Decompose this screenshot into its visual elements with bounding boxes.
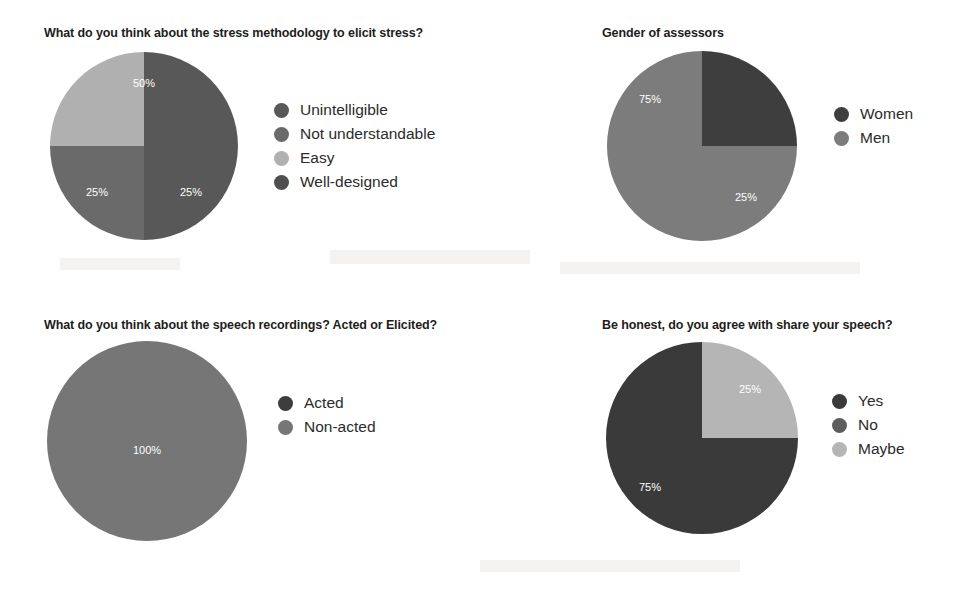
legend-swatch-icon (278, 420, 293, 435)
pie-slice (47, 341, 247, 541)
chart-title-gender: Gender of assessors (602, 26, 913, 40)
figure-page: What do you think about the stress metho… (0, 0, 959, 591)
legend-item[interactable]: Women (834, 105, 913, 123)
pie-chart-gender: 25%75% (602, 46, 802, 246)
legend-item-label: Well-designed (300, 173, 398, 191)
pie-svg-speech: 100% (44, 338, 250, 544)
legend-item[interactable]: Unintelligible (274, 101, 435, 119)
pie-slice-label: 75% (639, 481, 661, 493)
legend-stress: UnintelligibleNot understandableEasyWell… (274, 98, 435, 194)
legend-swatch-icon (832, 394, 847, 409)
legend-swatch-icon (274, 151, 289, 166)
scan-smudge (560, 262, 860, 274)
legend-item-label: Easy (300, 149, 334, 167)
pie-svg-share: 25%75% (602, 338, 802, 538)
pie-svg-stress: 50%25%25% (44, 46, 244, 246)
legend-item-label: Yes (858, 392, 883, 410)
scan-smudge (330, 250, 530, 264)
chart-panel-stress: What do you think about the stress metho… (44, 26, 435, 246)
legend-item[interactable]: Non-acted (278, 418, 376, 436)
chart-panel-speech: What do you think about the speech recor… (44, 318, 437, 544)
chart-title-speech: What do you think about the speech recor… (44, 318, 437, 332)
legend-item-label: Men (860, 129, 890, 147)
legend-item[interactable]: Not understandable (274, 125, 435, 143)
pie-slice-label: 100% (133, 444, 161, 456)
legend-item-label: Maybe (858, 440, 905, 458)
scan-smudge (480, 560, 740, 572)
chart-title-share: Be honest, do you agree with share your … (602, 318, 905, 332)
legend-swatch-icon (834, 131, 849, 146)
chart-row-gender: 25%75% WomenMen (602, 46, 913, 246)
pie-slice-label: 25% (86, 186, 108, 198)
chart-title-stress: What do you think about the stress metho… (44, 26, 435, 40)
legend-swatch-icon (274, 175, 289, 190)
legend-item-label: No (858, 416, 878, 434)
legend-swatch-icon (278, 396, 293, 411)
legend-item[interactable]: Maybe (832, 440, 905, 458)
legend-speech: ActedNon-acted (278, 391, 376, 439)
chart-row-stress: 50%25%25% UnintelligibleNot understandab… (44, 46, 435, 246)
legend-item[interactable]: No (832, 416, 905, 434)
legend-item[interactable]: Easy (274, 149, 435, 167)
legend-item-label: Non-acted (304, 418, 376, 436)
pie-slice-label: 25% (180, 186, 202, 198)
pie-chart-stress: 50%25%25% (44, 46, 244, 246)
legend-item-label: Acted (304, 394, 344, 412)
chart-row-speech: 100% ActedNon-acted (44, 338, 437, 544)
legend-swatch-icon (274, 103, 289, 118)
pie-slice (50, 52, 144, 146)
legend-swatch-icon (832, 418, 847, 433)
legend-item[interactable]: Acted (278, 394, 376, 412)
pie-slice-label: 25% (735, 191, 757, 203)
scan-smudge (60, 258, 180, 270)
legend-item[interactable]: Men (834, 129, 913, 147)
legend-share: YesNoMaybe (832, 389, 905, 461)
legend-item-label: Not understandable (300, 125, 435, 143)
legend-swatch-icon (832, 442, 847, 457)
pie-slice-label: 75% (639, 93, 661, 105)
legend-item-label: Unintelligible (300, 101, 388, 119)
pie-chart-share: 25%75% (602, 338, 802, 538)
chart-panel-share: Be honest, do you agree with share your … (602, 318, 905, 538)
legend-item-label: Women (860, 105, 913, 123)
legend-swatch-icon (274, 127, 289, 142)
legend-item[interactable]: Yes (832, 392, 905, 410)
chart-panel-gender: Gender of assessors 25%75% WomenMen (602, 26, 913, 246)
legend-swatch-icon (834, 107, 849, 122)
pie-svg-gender: 25%75% (602, 46, 802, 246)
pie-slice-label: 50% (133, 77, 155, 89)
pie-slice (702, 51, 797, 146)
pie-slice-label: 25% (739, 383, 761, 395)
legend-gender: WomenMen (834, 102, 913, 150)
pie-chart-speech: 100% (44, 338, 250, 544)
legend-item[interactable]: Well-designed (274, 173, 435, 191)
chart-row-share: 25%75% YesNoMaybe (602, 338, 905, 538)
pie-slice (144, 52, 238, 240)
